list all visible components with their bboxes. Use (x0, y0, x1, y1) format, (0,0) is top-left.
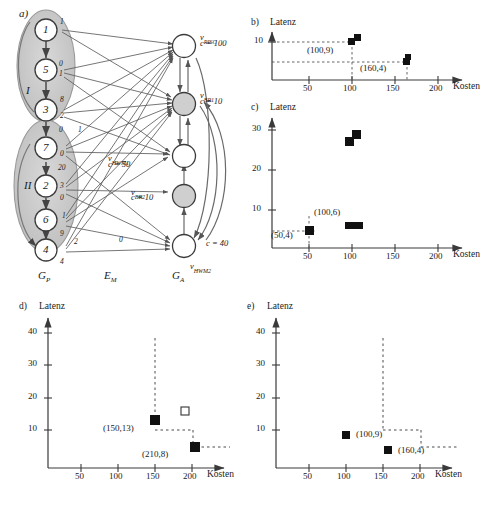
edge-weight-3: 8 (60, 96, 64, 104)
edge-weight-11: 1 (62, 212, 66, 220)
edge-weight-13: 2 (74, 238, 78, 246)
chart-b-guides (272, 42, 407, 80)
resource-cost-vbr2: c = 10 (131, 193, 153, 202)
bottom-label-ga: GA (172, 270, 184, 284)
edge-weight-4: 2 (60, 112, 64, 120)
chart-b-xtick-50: 50 (303, 84, 312, 93)
resource-node-vbr2[interactable] (173, 185, 196, 208)
chart-e-xtick-100: 100 (337, 472, 351, 481)
resource-node-vbr1[interactable] (173, 93, 196, 116)
chart-d-point-2-hollow[interactable] (181, 407, 189, 415)
task-node-2-label: 2 (43, 180, 49, 191)
bottom-label-em: EM (104, 270, 117, 284)
edge-weight-1: 0 (59, 60, 63, 68)
resource-node-vhwm2[interactable] (173, 235, 196, 258)
chart-c-ytick-20: 20 (252, 164, 261, 173)
bottom-label-ga-name: G (172, 269, 180, 281)
cluster-label-II: II (24, 180, 31, 191)
task-node-7-label: 7 (43, 142, 49, 153)
chart-e-point-0[interactable] (342, 431, 350, 439)
task-node-6-label: 6 (43, 214, 49, 225)
chart-c-xtick-200: 200 (429, 252, 443, 261)
edge-weight-2: 1 (59, 70, 63, 78)
chart-b-point-label-2: (160,4) (360, 64, 386, 73)
panel-a-architecture-graph: a) 1 5 3 7 2 6 4 I II 1 0 1 8 2 0 1 0 20… (0, 0, 250, 290)
chart-c-point-1[interactable] (352, 130, 361, 139)
chart-b-xtick-200: 200 (429, 84, 443, 93)
chart-e-xtick-150: 150 (374, 472, 388, 481)
resource-node-vrisc[interactable] (173, 35, 196, 58)
chart-e-ytick-40: 40 (256, 327, 265, 336)
edge-weight-10: 0 (60, 194, 64, 202)
panel-a-tag: a) (19, 8, 28, 19)
chart-d-ytick-40: 40 (28, 327, 37, 336)
chart-c-point-label-3: (100,6) (314, 208, 340, 217)
edge-weight-5: 0 (59, 126, 63, 134)
edge-weight-7: 0 (60, 150, 64, 158)
bottom-label-gp-sub: P (46, 276, 50, 284)
chart-d-ytick-20: 20 (28, 392, 37, 401)
chart-d-ytick-30: 30 (28, 359, 37, 368)
chart-b-pareto-plot: b) Latenz 10 50 100 150 200 K (250, 18, 477, 98)
edge-weight-8: 20 (58, 164, 66, 172)
chart-d-xtick-50: 50 (75, 472, 84, 481)
chart-c-ytick-10: 10 (252, 204, 261, 213)
chart-e-point-label-1: (160,4) (398, 446, 424, 455)
edge-weight-15: 4 (60, 258, 64, 266)
task-node-1-label: 1 (43, 24, 49, 35)
chart-c-xtick-50: 50 (303, 252, 312, 261)
chart-d-xlabel: Kosten (207, 470, 234, 480)
task-node-3-label: 3 (43, 104, 49, 115)
bottom-label-em-name: E (104, 269, 111, 281)
chart-b-point-0[interactable] (348, 38, 355, 45)
task-node-5-label: 5 (43, 64, 49, 75)
bottom-label-gp: GP (38, 270, 50, 284)
resource-cost-vhwm2: c = 40 (206, 239, 228, 248)
chart-c-xtick-150: 150 (386, 252, 400, 261)
chart-c-xlabel: Kosten (453, 250, 480, 260)
chart-b-ytick-10: 10 (254, 36, 263, 45)
edge-weight-0: 1 (60, 18, 64, 26)
chart-d-ytick-10: 10 (28, 424, 37, 433)
resource-cost-vbr1: c = 10 (200, 97, 222, 106)
bottom-label-em-sub: M (111, 276, 117, 284)
chart-e-xtick-200: 200 (411, 472, 425, 481)
edge-weight-9: 3 (60, 182, 64, 190)
chart-c-point-2[interactable] (305, 226, 314, 235)
chart-e-point-1[interactable] (384, 446, 392, 454)
chart-c-xtick-100: 100 (343, 252, 357, 261)
chart-e-xtick-50: 50 (303, 472, 312, 481)
chart-d-xtick-100: 100 (109, 472, 123, 481)
chart-c-point-4[interactable] (353, 222, 363, 229)
chart-b-point-1[interactable] (354, 34, 361, 41)
chart-d-pareto-staircase (155, 338, 230, 447)
chart-d-point-label-0: (150,13) (103, 424, 134, 433)
chart-e-ytick-10: 10 (256, 424, 265, 433)
chart-c-pareto-plot: c) Latenz 30 20 10 50 100 150 200 Kosten… (250, 100, 477, 285)
resource-node-vhwm1[interactable] (173, 145, 196, 168)
resource-cost-vrisc: c = 100 (200, 39, 227, 48)
task-node-4-label: 4 (43, 244, 49, 255)
chart-e-ytick-20: 20 (256, 392, 265, 401)
chart-d-point-0[interactable] (150, 415, 160, 425)
bottom-label-ga-sub: A (180, 276, 184, 284)
chart-b-xtick-150: 150 (386, 84, 400, 93)
cluster-label-I: I (26, 85, 30, 96)
chart-e-xlabel: Kosten (435, 470, 462, 480)
resource-label-vhwm2: vHWM2 (190, 256, 211, 274)
mapping-edges (62, 30, 173, 252)
bottom-label-gp-name: G (38, 269, 46, 281)
chart-c-ytick-30: 30 (252, 124, 261, 133)
chart-b-point-3[interactable] (405, 54, 411, 60)
edge-weight-14: 0 (119, 236, 123, 244)
chart-d-pareto-plot: d) Latenz 40 30 20 10 50 100 150 200 K (18, 300, 248, 510)
chart-d-xtick-150: 150 (146, 472, 160, 481)
edge-weight-6: 1 (78, 126, 82, 134)
chart-b-point-label-0: (100,9) (307, 46, 333, 55)
chart-d-point-label-1: (210,8) (142, 450, 168, 459)
chart-b-xlabel: Kosten (453, 82, 480, 92)
chart-d-point-1[interactable] (190, 442, 200, 452)
resource-label-vhwm2-sub: HWM2 (194, 268, 211, 274)
chart-e-point-label-0: (100,9) (356, 430, 382, 439)
chart-d-xtick-200: 200 (183, 472, 197, 481)
